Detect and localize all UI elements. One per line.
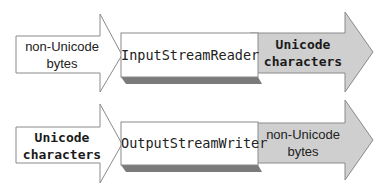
input-label-row1-line1: non-Unicode	[22, 38, 102, 55]
output-label-row2-line1: non-Unicode	[258, 126, 348, 143]
input-label-row1-line2: bytes	[22, 55, 102, 72]
input-label-row2-line2: characters	[20, 146, 104, 163]
converter-box-shadow-row2	[121, 165, 262, 172]
input-label-row1: non-Unicode bytes	[22, 38, 102, 72]
converter-label-row1: InputStreamReader	[121, 47, 258, 64]
output-label-row2-line2: bytes	[258, 143, 348, 160]
input-label-row2: Unicode characters	[20, 129, 104, 163]
input-label-row2-line1: Unicode	[20, 129, 104, 146]
output-label-row1: Unicode characters	[258, 36, 348, 70]
output-label-row1-line2: characters	[258, 53, 348, 70]
output-label-row2: non-Unicode bytes	[258, 126, 348, 160]
converter-label-row2: OutputStreamWriter	[121, 135, 258, 152]
output-label-row1-line1: Unicode	[258, 36, 348, 53]
converter-box-shadow-row1	[121, 77, 262, 84]
stream-conversion-diagram: non-Unicode bytes InputStreamReader Unic…	[0, 0, 378, 191]
